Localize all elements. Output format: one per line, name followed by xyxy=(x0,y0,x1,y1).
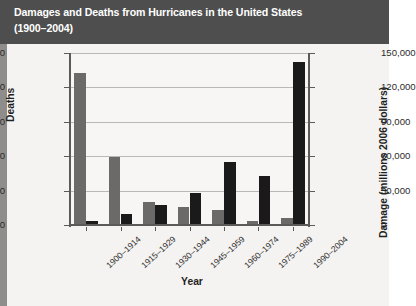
x-tick-label: 1930–1944 xyxy=(173,234,212,270)
left-axis-tick xyxy=(64,53,69,54)
x-axis-tick xyxy=(155,227,156,231)
plot-area: 02,0004,0006,0008,00010,000030,00060,000… xyxy=(69,53,310,226)
bar-deaths xyxy=(109,157,121,224)
left-axis-tick-label: 0 xyxy=(0,219,5,230)
right-axis-tick xyxy=(310,87,315,88)
right-axis-tick xyxy=(310,225,315,226)
left-axis-tick-label: 2,000 xyxy=(0,185,5,196)
right-axis-tick xyxy=(310,191,315,192)
bar-group xyxy=(103,52,137,224)
bar-group xyxy=(69,52,103,224)
bar-deaths xyxy=(178,207,190,224)
x-tick-label: 1915–1929 xyxy=(139,234,178,270)
chart-panel: Deaths Damage (millions 2006 dollars) Ye… xyxy=(7,44,389,306)
right-axis-line xyxy=(308,53,310,227)
x-axis-tick xyxy=(190,227,191,231)
right-axis-tick xyxy=(310,156,315,157)
chart-title-line-2: (1900–2004) xyxy=(14,20,389,36)
left-axis-line xyxy=(69,53,71,227)
left-axis-tick xyxy=(64,87,69,88)
right-axis-tick xyxy=(310,53,315,54)
x-axis-line xyxy=(69,224,310,226)
bar-damage xyxy=(155,205,167,224)
left-axis-title: Deaths xyxy=(5,88,16,122)
right-axis-tick-label: 0 xyxy=(381,219,386,230)
bar-deaths xyxy=(74,73,86,224)
right-axis-tick-label: 120,000 xyxy=(381,81,416,92)
bar-damage xyxy=(293,62,305,224)
bar-group xyxy=(276,52,310,224)
x-tick-label: 1945–1959 xyxy=(208,234,247,270)
left-axis-tick-label: 4,000 xyxy=(0,150,5,161)
left-axis-tick xyxy=(64,122,69,123)
bar-damage xyxy=(190,193,202,224)
left-axis-tick xyxy=(64,156,69,157)
bar-damage xyxy=(259,176,271,224)
bar-group xyxy=(241,52,275,224)
bar-group xyxy=(138,52,172,224)
x-axis-tick xyxy=(86,227,87,231)
bar-group xyxy=(207,52,241,224)
right-axis-tick-label: 90,000 xyxy=(381,116,410,127)
left-axis-tick xyxy=(64,225,69,226)
x-axis-tick xyxy=(258,227,259,231)
x-axis-tick xyxy=(224,227,225,231)
right-axis-tick-label: 150,000 xyxy=(381,47,416,58)
x-tick-label: 1975–1989 xyxy=(276,234,315,270)
bar-deaths xyxy=(212,210,224,224)
left-axis-tick-label: 8,000 xyxy=(0,81,5,92)
right-axis-title: Damage (millions 2006 dollars) xyxy=(378,87,389,238)
chart-title-banner: Damages and Deaths from Hurricanes in th… xyxy=(0,0,389,44)
x-axis-tick xyxy=(293,227,294,231)
right-axis-tick xyxy=(310,122,315,123)
right-axis-tick-label: 60,000 xyxy=(381,150,410,161)
left-axis-tick-label: 10,000 xyxy=(0,47,5,58)
chart-title-line-1: Damages and Deaths from Hurricanes in th… xyxy=(14,4,389,20)
x-axis-tick xyxy=(121,227,122,231)
bar-group xyxy=(172,52,206,224)
bar-damage xyxy=(121,214,133,224)
x-axis-title: Year xyxy=(7,276,377,287)
bar-deaths xyxy=(143,202,155,224)
bar-damage xyxy=(224,162,236,224)
x-tick-label: 1900–1914 xyxy=(104,234,143,270)
left-axis-tick xyxy=(64,191,69,192)
x-tick-label: 1960–1974 xyxy=(242,234,281,270)
x-tick-label: 1990–2004 xyxy=(311,234,350,270)
right-axis-tick-label: 30,000 xyxy=(381,185,410,196)
left-axis-tick-label: 6,000 xyxy=(0,116,5,127)
